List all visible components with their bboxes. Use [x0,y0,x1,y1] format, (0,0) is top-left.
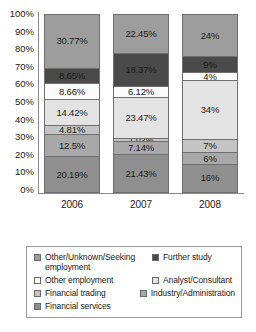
legend-item[interactable]: Other/Unknown/Seeking employment [34,252,152,272]
bar-segment-label: 18.37% [125,65,156,75]
chart-legend: Other/Unknown/Seeking employmentFurther … [26,246,242,318]
y-axis-tick-label: 80% [15,44,34,54]
bar-segment-label: 16% [201,173,219,183]
bar-segment: 23.47% [113,97,169,138]
legend-row: Other/Unknown/Seeking employmentFurther … [34,252,235,272]
bar-segment-label: 6% [203,154,216,164]
bar-segment-label: 34% [201,105,219,115]
bar-group: 30.77%8.65%8.66%14.42%4.81%12.5%20.19%22… [38,14,244,193]
bar-segment: 34% [182,80,238,139]
bar-column: 30.77%8.65%8.66%14.42%4.81%12.5%20.19% [44,14,100,193]
legend-swatch-icon [34,254,41,261]
legend-item[interactable]: Analyst/Consultant [152,275,232,285]
x-axis-line [38,193,244,194]
y-axis-tick-label: 50% [15,97,34,107]
legend-row: Other employmentAnalyst/Consultant [34,275,235,285]
bar-segment: 20.19% [44,156,100,193]
y-axis-tick-label: 40% [15,115,34,125]
bar-segment: 21.43% [113,154,169,193]
legend-row: Financial services [34,301,235,311]
legend-swatch-icon [152,254,159,261]
legend-swatch-icon [34,303,41,310]
legend-item[interactable]: Industry/Administration [140,288,235,298]
bar-segment: 7% [182,139,238,152]
y-axis-tick-label: 90% [15,27,34,37]
legend-item-label: Financial services [45,301,111,311]
bar-column: 22.45%18.37%6.12%23.47%1.02%7.14%21.43% [113,14,169,193]
legend-item-label: Other employment [45,275,113,285]
legend-item[interactable]: Financial services [34,301,111,311]
bar-segment-label: 20.19% [56,170,87,180]
legend-item[interactable]: Other employment [34,275,152,285]
bar-segment: 8.65% [44,68,100,84]
bar-segment-label: 4.81% [59,125,85,134]
y-axis-tick-label: 10% [15,168,34,178]
bar-segment: 9% [182,56,238,72]
bar-segment: 18.37% [113,53,169,85]
bar-segment: 4.81% [44,125,100,134]
y-axis-tick-label: 20% [15,150,34,160]
legend-swatch-icon [152,277,159,284]
x-axis-tick-label: 2008 [182,199,238,210]
bar-segment-label: 6.12% [128,87,154,97]
bar-segment-label: 8.65% [59,71,85,81]
bar-segment: 30.77% [44,14,100,68]
bar-segment-label: 9% [203,60,216,70]
legend-item-label: Analyst/Consultant [163,275,232,285]
y-axis-tick-label: 100% [10,9,34,19]
legend-item[interactable]: Financial trading [34,288,140,298]
legend-swatch-icon [34,277,41,284]
bar-segment: 16% [182,164,238,193]
y-axis-tick-label: 60% [15,80,34,90]
legend-item-label: Industry/Administration [151,288,235,298]
legend-item-label: Other/Unknown/Seeking employment [45,252,152,272]
bar-segment-label: 22.45% [125,29,156,39]
bar-segment-label: 12.5% [59,141,85,151]
bar-segment-label: 30.77% [56,36,87,46]
bar-segment: 24% [182,14,238,56]
plot-area: 100%90%80%70%60%50%40%30%20%10%0% 30.77%… [0,0,256,232]
stacked-bar-chart: 100%90%80%70%60%50%40%30%20%10%0% 30.77%… [0,0,256,332]
bar-segment: 4% [182,72,238,80]
bar-segment-label: 8.66% [59,87,85,97]
bar-segment: 8.66% [44,83,100,99]
bar-segment-label: 23.47% [125,113,156,123]
bar-segment-label: 14.42% [56,108,87,118]
legend-item-label: Further study [163,252,212,262]
bar-segment-label: 7.14% [128,143,154,153]
legend-item-label: Financial trading [45,288,106,298]
y-axis-tick-label: 30% [15,132,34,142]
bar-segment: 6% [182,152,238,163]
bar-segment: 22.45% [113,14,169,53]
y-axis-tick-label: 0% [20,185,34,195]
legend-item[interactable]: Further study [152,252,212,262]
x-axis-tick-label: 2007 [113,199,169,210]
bar-segment: 7.14% [113,141,169,154]
legend-swatch-icon [140,290,147,297]
x-axis: 200620072008 [38,196,244,214]
bar-segment-label: 21.43% [125,169,156,179]
y-axis-tick-label: 70% [15,62,34,72]
bar-segment-label: 7% [203,141,216,151]
bar-segment-label: 4% [203,72,216,80]
bar-segment: 14.42% [44,99,100,125]
bar-column: 24%9%4%34%7%6%16% [182,14,238,193]
bar-segment: 12.5% [44,134,100,156]
bar-segment-label: 24% [201,31,219,41]
legend-swatch-icon [34,290,41,297]
y-axis: 100%90%80%70%60%50%40%30%20%10%0% [0,14,36,190]
legend-row: Financial tradingIndustry/Administration [34,288,235,298]
x-axis-tick-label: 2006 [44,199,100,210]
bar-segment: 6.12% [113,86,169,97]
